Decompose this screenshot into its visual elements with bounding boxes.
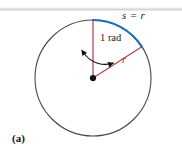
center-dot	[90, 75, 96, 81]
arc-length-label: s = r	[122, 10, 145, 21]
central-angle-label: 1 rad	[100, 33, 121, 44]
radian-figure: s = r 1 rad r (a)	[0, 0, 182, 163]
circle-diagram-svg	[0, 0, 182, 163]
panel-label: (a)	[12, 133, 25, 144]
radius-label: r	[122, 55, 126, 65]
